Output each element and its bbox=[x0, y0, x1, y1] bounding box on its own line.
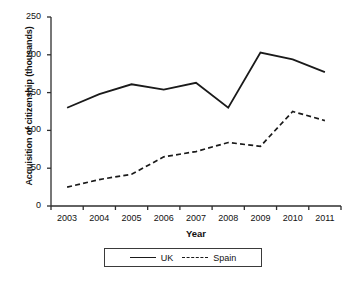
y-axis-tick-label: 200 bbox=[15, 49, 41, 59]
y-axis-tick-label: 150 bbox=[15, 87, 41, 97]
x-axis-tick-label: 2006 bbox=[147, 213, 181, 223]
x-axis-title: Year bbox=[51, 228, 341, 239]
x-axis-tick-label: 2011 bbox=[308, 213, 342, 223]
x-axis-tick-label: 2010 bbox=[276, 213, 310, 223]
x-axis-tick-label: 2004 bbox=[82, 213, 116, 223]
legend-item-spain: Spain bbox=[182, 253, 236, 263]
axes bbox=[51, 17, 341, 206]
x-axis-tick-label: 2003 bbox=[50, 213, 84, 223]
series-line-spain bbox=[67, 112, 325, 188]
legend-swatch-uk-solid-line-icon bbox=[130, 257, 156, 258]
legend-label-uk: UK bbox=[161, 253, 174, 263]
x-axis-tick-label: 2008 bbox=[211, 213, 245, 223]
chart-legend: UK Spain bbox=[104, 248, 262, 267]
y-axis-tick-label: 50 bbox=[15, 162, 41, 172]
legend-swatch-spain-dashed-line-icon bbox=[182, 257, 208, 258]
y-axis-tick-label: 100 bbox=[15, 124, 41, 134]
series-line-uk bbox=[67, 53, 325, 108]
legend-label-spain: Spain bbox=[213, 253, 236, 263]
y-axis-tick-label: 250 bbox=[15, 11, 41, 21]
legend-item-uk: UK bbox=[130, 253, 174, 263]
x-axis-tick-label: 2009 bbox=[243, 213, 277, 223]
data-series-group bbox=[67, 53, 325, 188]
x-axis-tick-label: 2007 bbox=[179, 213, 213, 223]
y-axis-tick-label: 0 bbox=[15, 200, 41, 210]
line-chart-figure: Acquisition of citizenship (thousands) 0… bbox=[0, 0, 355, 281]
x-axis-tick-label: 2005 bbox=[115, 213, 149, 223]
